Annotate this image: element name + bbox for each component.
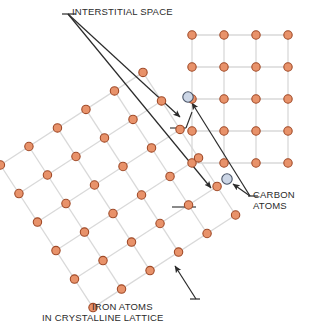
- carbon-atom-upper: [183, 92, 193, 102]
- iron-atom: [109, 209, 117, 217]
- label-interstitial-space: INTERSTITIAL SPACE: [72, 6, 173, 17]
- iron-atom: [90, 181, 98, 189]
- lattice-grid-lines-upper-right: [192, 35, 288, 163]
- iron-atom: [176, 125, 184, 133]
- iron-atom: [174, 248, 182, 256]
- iron-atom: [284, 31, 292, 39]
- lattice-drawing: [0, 0, 312, 332]
- lattice-bond: [175, 266, 196, 299]
- label-carbon-line1: CARBON: [253, 189, 295, 200]
- iron-atom: [33, 218, 41, 226]
- iron-atom: [284, 95, 292, 103]
- iron-atom: [129, 115, 137, 123]
- iron-atom: [284, 63, 292, 71]
- label-carbon-line2: ATOMS: [253, 200, 287, 211]
- iron-atom: [127, 238, 135, 246]
- iron-atom: [110, 87, 118, 95]
- iron-atom: [252, 31, 260, 39]
- iron-atom: [213, 182, 221, 190]
- iron-atom: [188, 63, 196, 71]
- lattice-bond: [233, 184, 250, 196]
- label-iron-atoms: IRON ATOMS IN CRYSTALLINE LATTICE: [92, 301, 164, 323]
- iron-atom: [220, 31, 228, 39]
- iron-atom: [220, 127, 228, 135]
- iron-atom: [139, 68, 147, 76]
- iron-atom: [0, 161, 5, 169]
- iron-atom: [156, 219, 164, 227]
- iron-atoms-rotated: [0, 68, 240, 312]
- crystalline-lattice-diagram: INTERSTITIAL SPACE CARBON ATOMS IRON ATO…: [0, 0, 312, 332]
- iron-atom: [203, 229, 211, 237]
- iron-atom: [252, 127, 260, 135]
- iron-atom: [117, 285, 125, 293]
- iron-atom: [53, 124, 61, 132]
- lattice-bond: [186, 112, 192, 128]
- lattice-grid-lines-rotated: [0, 72, 235, 307]
- iron-atom: [184, 201, 192, 209]
- iron-atom: [188, 31, 196, 39]
- iron-atom: [220, 159, 228, 167]
- iron-atom: [52, 246, 60, 254]
- iron-atom: [147, 144, 155, 152]
- iron-atom: [137, 191, 145, 199]
- leader-lines: [62, 14, 258, 299]
- iron-atom: [188, 127, 196, 135]
- iron-atom: [119, 162, 127, 170]
- iron-atom: [220, 95, 228, 103]
- iron-atom: [80, 228, 88, 236]
- iron-atom: [252, 63, 260, 71]
- iron-atom: [100, 134, 108, 142]
- iron-atom: [252, 95, 260, 103]
- iron-atom: [70, 275, 78, 283]
- label-iron-line2: IN CRYSTALLINE LATTICE: [42, 312, 164, 323]
- iron-atom: [72, 152, 80, 160]
- label-iron-line1: IRON ATOMS: [92, 301, 153, 312]
- iron-atom: [62, 199, 70, 207]
- iron-atom: [231, 211, 239, 219]
- iron-atom: [194, 154, 202, 162]
- carbon-atom-lower: [222, 174, 232, 184]
- iron-atom: [166, 172, 174, 180]
- label-carbon-atoms: CARBON ATOMS: [253, 189, 295, 211]
- carbon-atoms: [183, 92, 232, 184]
- iron-atom: [284, 159, 292, 167]
- iron-atom: [220, 63, 228, 71]
- iron-atom: [284, 127, 292, 135]
- iron-atom: [43, 171, 51, 179]
- iron-atom: [157, 97, 165, 105]
- iron-atom: [15, 189, 23, 197]
- iron-atom: [252, 159, 260, 167]
- iron-atom: [25, 142, 33, 150]
- iron-atom: [99, 256, 107, 264]
- lattice-bond: [192, 103, 250, 196]
- iron-atom: [82, 105, 90, 113]
- iron-atom: [146, 266, 154, 274]
